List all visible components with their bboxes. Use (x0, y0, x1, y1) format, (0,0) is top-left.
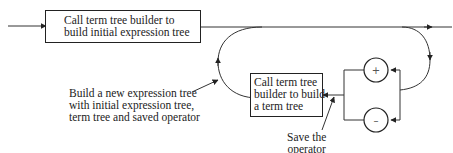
initial-expression-box: Call term tree builder to build initial … (45, 10, 201, 43)
loop-right (400, 27, 430, 90)
build-new-line-2: with initial expression tree, (69, 99, 200, 111)
term-box-line-2: builder to build (254, 88, 322, 100)
save-operator-annotation: Save the operator (287, 131, 326, 153)
term-tree-box: Call term tree builder to build a term t… (250, 73, 323, 117)
save-op-line-1: Save the (287, 131, 326, 143)
term-box-line-1: Call term tree (254, 76, 322, 88)
term-box-line-3: a term tree (254, 100, 322, 112)
build-new-line-3: term tree and saved operator (69, 111, 200, 123)
build-new-line-1: Build a new expression tree (69, 87, 200, 99)
save-op-line-2: operator (287, 143, 326, 153)
initial-box-line-1: Call term tree builder to (64, 14, 200, 26)
minus-operator: – (374, 115, 379, 126)
build-new-annotation: Build a new expression tree with initial… (69, 87, 200, 123)
initial-box-line-2: build initial expression tree (64, 26, 200, 38)
plus-operator: + (372, 65, 380, 76)
